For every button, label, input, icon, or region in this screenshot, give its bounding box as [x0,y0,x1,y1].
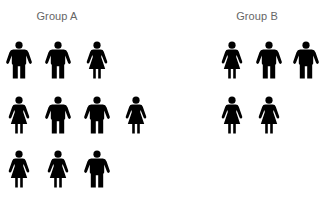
female-person-icon [44,150,72,188]
female-person-icon [5,150,33,188]
male-person-icon [255,41,283,79]
female-person-icon [122,96,150,134]
male-person-icon [292,41,320,79]
male-person-icon [44,96,72,134]
female-person-icon [5,96,33,134]
male-person-icon [44,41,72,79]
group-b-title: Group B [217,10,297,22]
group-a-title: Group A [17,10,97,22]
male-person-icon [83,96,111,134]
female-person-icon [218,41,246,79]
female-person-icon [83,41,111,79]
male-person-icon [5,41,33,79]
female-person-icon [218,96,246,134]
male-person-icon [83,150,111,188]
female-person-icon [255,96,283,134]
